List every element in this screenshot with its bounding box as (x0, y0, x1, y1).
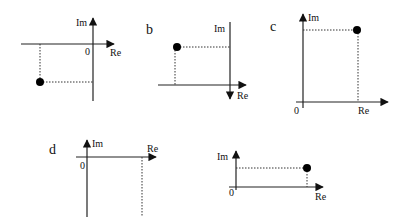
origin-label: 0 (229, 187, 234, 198)
point-marker (173, 43, 181, 51)
point-marker (303, 164, 311, 172)
im-label: Im (308, 12, 319, 23)
panel-label: d (49, 142, 56, 157)
re-label: Re (110, 47, 122, 58)
panel-a: Im 0 Re (21, 17, 122, 101)
panel-e: Im 0 Re (217, 151, 327, 202)
complex-plane-figure: Im 0 Re b Im Re c Im 0 Re d Im 0 Re (0, 0, 398, 217)
im-label: Im (217, 151, 228, 162)
panel-c: c Im 0 Re (270, 12, 388, 116)
panel-b: b Im Re (146, 22, 249, 101)
point-marker (36, 78, 44, 86)
panel-label: b (146, 22, 153, 37)
panel-label: c (270, 19, 276, 34)
im-label: Im (76, 17, 87, 28)
re-label: Re (315, 191, 327, 202)
im-label: Im (92, 138, 103, 149)
origin-label: 0 (85, 46, 90, 57)
origin-label: 0 (294, 105, 299, 116)
re-label: Re (358, 105, 370, 116)
re-label: Re (147, 143, 159, 154)
im-label: Im (214, 23, 225, 34)
origin-label: 0 (80, 160, 85, 171)
re-label: Re (237, 90, 249, 101)
point-marker (353, 26, 361, 34)
panel-d: d Im 0 Re (49, 138, 159, 217)
